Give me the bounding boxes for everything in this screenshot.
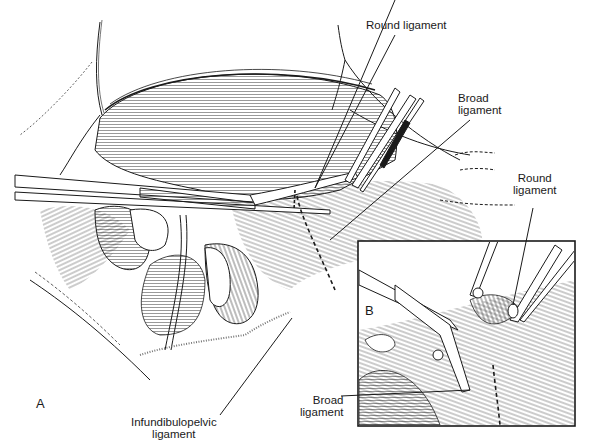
label-broad-ligament-inset-line2: ligament [300,406,343,418]
label-broad-ligament-top: Broad ligament [458,92,501,116]
label-round-ligament-inset: Round ligament [513,172,556,196]
label-broad-ligament-top-line2: ligament [458,104,501,116]
label-round-ligament-top: Round ligament [366,19,447,31]
label-broad-ligament-inset: Broad ligament [300,394,343,418]
surgical-illustration: Round ligament Broad ligament Round liga… [0,0,591,443]
abdominal-wall-left [20,20,104,175]
label-round-ligament-inset-line2: ligament [513,184,556,196]
label-infundibulopelvic-line1: Infundibulopelvic [131,416,217,428]
inset-panel-b [358,241,575,426]
label-broad-ligament-top-line1: Broad [458,92,501,104]
label-broad-ligament-inset-line1: Broad [300,394,343,406]
panel-letter-b: B [365,303,374,318]
label-infundibulopelvic-line2: ligament [131,428,217,440]
label-round-ligament-inset-line1: Round [513,172,556,184]
label-infundibulopelvic-ligament: Infundibulopelvic ligament [131,416,217,440]
line-art-drawing [0,0,591,443]
panel-letter-a: A [36,396,45,411]
